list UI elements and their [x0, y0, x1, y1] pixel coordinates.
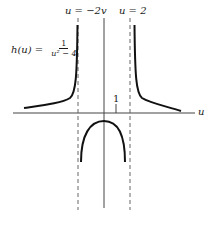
tick-1-label: 1 — [113, 94, 119, 104]
formula-denominator: u² − 4 — [49, 49, 78, 58]
asymptote-left-label: u = −2 — [65, 6, 101, 16]
function-plot — [0, 0, 212, 225]
function-formula: h(u) = 1 u² − 4 — [11, 40, 79, 59]
formula-lhs: h(u) = — [11, 44, 43, 55]
left-branch-curve — [24, 25, 78, 108]
v-axis-label: v — [101, 6, 107, 16]
formula-fraction: 1 u² − 4 — [49, 40, 78, 59]
asymptote-right-label: u = 2 — [119, 6, 147, 16]
middle-branch-curve — [81, 121, 125, 162]
u-axis-label: u — [198, 107, 204, 117]
formula-numerator: 1 — [59, 40, 68, 49]
right-branch-curve — [135, 25, 182, 111]
